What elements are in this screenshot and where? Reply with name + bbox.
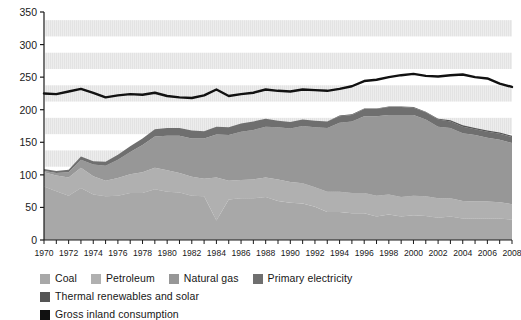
square-swatch-icon — [91, 274, 101, 284]
svg-text:50: 50 — [25, 201, 37, 213]
svg-text:1996: 1996 — [355, 248, 374, 258]
square-swatch-icon — [169, 274, 179, 284]
square-swatch-icon — [40, 310, 50, 320]
svg-text:1994: 1994 — [330, 248, 349, 258]
legend-item-gross-inland-consumption[interactable]: Gross inland consumption — [40, 308, 179, 320]
square-swatch-icon — [40, 274, 50, 284]
svg-text:2006: 2006 — [478, 248, 497, 258]
legend-label: Gross inland consumption — [55, 308, 179, 320]
svg-text:300: 300 — [19, 39, 37, 51]
legend-label: Coal — [55, 272, 77, 285]
legend-item-petroleum[interactable]: Petroleum — [91, 272, 155, 285]
legend-label: Thermal renewables and solar — [55, 290, 199, 303]
svg-text:150: 150 — [19, 136, 37, 148]
x-axis-tick-labels: 1970197219741976197819801982198419861988… — [34, 248, 521, 258]
svg-text:1986: 1986 — [231, 248, 250, 258]
svg-text:1970: 1970 — [34, 248, 53, 258]
svg-text:1992: 1992 — [305, 248, 324, 258]
svg-text:1980: 1980 — [158, 248, 177, 258]
chart-container: 050100150200250300350 197019721974197619… — [0, 0, 521, 320]
svg-text:2004: 2004 — [453, 248, 472, 258]
svg-text:200: 200 — [19, 104, 37, 116]
legend-label: Petroleum — [106, 272, 155, 285]
legend-label: Natural gas — [184, 272, 239, 285]
svg-text:350: 350 — [19, 6, 37, 18]
legend-label: Primary electricity — [268, 272, 353, 285]
svg-text:1978: 1978 — [133, 248, 152, 258]
square-swatch-icon — [40, 292, 50, 302]
legend-item-natural-gas[interactable]: Natural gas — [169, 272, 239, 285]
legend-item-thermal-renewables-and-solar[interactable]: Thermal renewables and solar — [40, 290, 199, 303]
svg-text:1974: 1974 — [84, 248, 103, 258]
svg-text:1984: 1984 — [207, 248, 226, 258]
svg-text:0: 0 — [31, 234, 37, 246]
svg-text:2008: 2008 — [502, 248, 521, 258]
svg-text:1990: 1990 — [281, 248, 300, 258]
svg-text:1998: 1998 — [379, 248, 398, 258]
svg-text:1988: 1988 — [256, 248, 275, 258]
svg-text:1972: 1972 — [59, 248, 78, 258]
svg-text:250: 250 — [19, 71, 37, 83]
chart-legend: Coal Petroleum Natural gas Primary elect… — [40, 272, 510, 320]
svg-text:1976: 1976 — [108, 248, 127, 258]
legend-item-primary-electricity[interactable]: Primary electricity — [253, 272, 353, 285]
svg-text:2002: 2002 — [429, 248, 448, 258]
svg-text:1982: 1982 — [182, 248, 201, 258]
square-swatch-icon — [253, 274, 263, 284]
y-axis-tick-labels: 050100150200250300350 — [19, 6, 37, 246]
legend-item-coal[interactable]: Coal — [40, 272, 77, 285]
svg-text:100: 100 — [19, 169, 37, 181]
svg-text:2000: 2000 — [404, 248, 423, 258]
